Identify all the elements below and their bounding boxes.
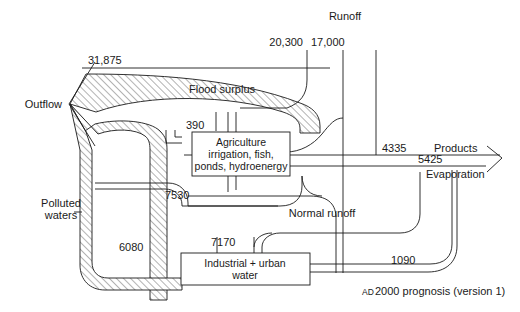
value-industrial-intake: 7170 xyxy=(211,236,235,248)
label-outflow: Outflow xyxy=(25,98,62,110)
industrial-label-line1: Industrial + urban xyxy=(204,257,286,269)
figure-caption: AD 2000 prognosis (version 1) xyxy=(362,285,505,297)
intake-curve-from-right-2 xyxy=(254,233,272,247)
agri-return-curve-right xyxy=(188,176,302,206)
label-products: Products xyxy=(434,142,478,154)
caption-smallcaps: AD xyxy=(362,287,374,297)
figure-canvas: Agriculture irrigation, fish, ponds, hyd… xyxy=(0,0,520,312)
label-polluted-waters-line2: waters xyxy=(44,209,78,221)
flood-to-agri-line-2 xyxy=(175,130,182,137)
water-balance-flow-diagram: Agriculture irrigation, fish, ponds, hyd… xyxy=(0,0,520,312)
value-evaporation: 5425 xyxy=(418,153,442,165)
agriculture-label-line2: irrigation, fish, xyxy=(208,148,273,160)
flood-to-agri-line xyxy=(166,130,182,143)
value-polluted-industrial: 6080 xyxy=(119,241,143,253)
label-evaporation: Evaporation xyxy=(426,168,485,180)
industrial-out-1090-lower xyxy=(310,170,457,272)
industrial-node[interactable]: Industrial + urban water xyxy=(181,253,310,285)
value-runoff-right: 17,000 xyxy=(311,36,345,48)
value-outflow-total: 31,875 xyxy=(88,54,122,66)
products-arrowhead-upper xyxy=(487,146,502,158)
value-flood-to-agri: 390 xyxy=(186,119,204,131)
label-flood-surplus: Flood surplus xyxy=(189,83,256,95)
label-runoff: Runoff xyxy=(329,10,362,22)
label-polluted-waters-line1: Polluted xyxy=(41,197,81,209)
agriculture-label-line1: Agriculture xyxy=(216,136,266,148)
products-arrowhead-lower xyxy=(487,158,502,172)
industrial-output-group xyxy=(310,170,457,272)
label-normal-runoff: Normal runoff xyxy=(289,207,356,219)
industrial-label-line2: water xyxy=(231,269,258,281)
value-agri-return: 7530 xyxy=(165,189,189,201)
value-industrial-out: 1090 xyxy=(391,254,415,266)
normal-runoff-sweep-2 xyxy=(302,176,322,196)
agriculture-label-line3: ponds, hydroenergy xyxy=(195,160,289,172)
caption-rest: 2000 prognosis (version 1) xyxy=(375,285,505,297)
value-runoff-left: 20,300 xyxy=(269,36,303,48)
value-products: 4335 xyxy=(382,142,406,154)
agriculture-node[interactable]: Agriculture irrigation, fish, ponds, hyd… xyxy=(192,132,290,176)
